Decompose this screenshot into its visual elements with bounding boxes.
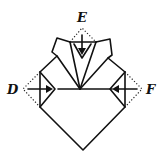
top-flap-e <box>70 28 96 42</box>
origami-diagram: E D F <box>0 0 164 164</box>
label-f: F <box>145 82 156 97</box>
label-d: D <box>6 82 19 97</box>
label-e: E <box>76 10 88 25</box>
paper-outline <box>40 38 125 150</box>
